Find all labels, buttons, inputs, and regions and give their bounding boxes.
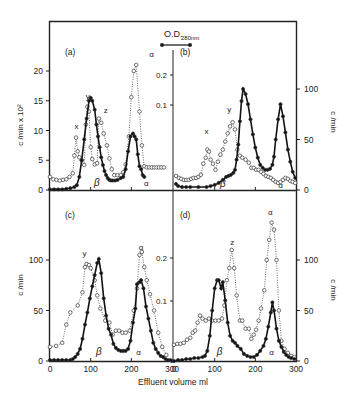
filled-data-point	[131, 321, 134, 324]
open-data-point	[252, 333, 256, 337]
filled-data-point	[85, 117, 88, 120]
open-data-point	[214, 168, 218, 172]
filled-data-point	[294, 176, 297, 179]
x-tick-label: 200	[124, 364, 138, 374]
open-data-point	[207, 150, 211, 154]
filled-data-point	[272, 155, 275, 158]
filled-data-point	[246, 354, 249, 357]
filled-data-point	[135, 138, 138, 141]
filled-data-point	[206, 349, 209, 352]
filled-data-point	[142, 287, 145, 290]
open-data-point	[97, 117, 101, 121]
open-data-point	[196, 321, 200, 325]
peak-annotation: x	[205, 127, 209, 136]
filled-data-point	[69, 187, 72, 190]
filled-data-point	[185, 185, 188, 188]
open-data-point	[270, 221, 274, 225]
y-axis-label-bottom-right: c /min	[329, 279, 338, 300]
peak-annotation: α	[144, 179, 149, 188]
open-data-point	[217, 319, 221, 323]
filled-data-point	[244, 92, 247, 95]
open-data-point	[250, 337, 254, 341]
open-data-point	[76, 150, 80, 154]
filled-data-point	[269, 311, 272, 314]
open-data-point	[73, 154, 77, 158]
filled-data-point	[48, 358, 51, 361]
filled-data-point	[61, 188, 64, 191]
x-tick-label: 100	[84, 364, 98, 374]
open-data-point	[69, 311, 73, 315]
open-data-point	[95, 294, 99, 298]
filled-data-point	[140, 279, 143, 282]
protein-line	[50, 98, 144, 190]
filled-data-point	[238, 120, 241, 123]
filled-data-point	[80, 159, 83, 162]
open-data-point	[65, 178, 69, 182]
filled-data-point	[100, 272, 103, 275]
filled-data-point	[205, 185, 208, 188]
open-data-point	[102, 132, 106, 136]
open-data-point	[241, 156, 245, 160]
od-tick-label: 0.2	[156, 71, 168, 80]
y-tick-label: 50	[304, 135, 314, 145]
filled-data-point	[185, 357, 188, 360]
open-data-point	[193, 329, 197, 333]
peak-annotation: α	[149, 50, 154, 59]
filled-data-point	[93, 108, 96, 111]
x-tick-label: 0	[48, 364, 53, 374]
filled-data-point	[109, 333, 112, 336]
filled-data-point	[256, 156, 259, 159]
filled-data-point	[172, 359, 175, 362]
open-data-point	[91, 157, 95, 161]
filled-data-point	[233, 168, 236, 171]
filled-data-point	[221, 281, 224, 284]
filled-data-point	[246, 103, 249, 106]
filled-data-point	[93, 274, 96, 277]
filled-data-point	[122, 175, 125, 178]
open-data-point	[81, 291, 85, 295]
open-data-point	[156, 331, 160, 335]
filled-data-point	[144, 305, 147, 308]
filled-data-point	[220, 287, 223, 290]
filled-data-point	[143, 175, 146, 178]
open-data-point	[189, 336, 193, 340]
filled-data-point	[107, 327, 110, 330]
x-tick-label: 300	[289, 364, 303, 374]
filled-data-point	[91, 99, 94, 102]
open-data-point	[74, 136, 78, 140]
panel-label: (b)	[180, 47, 191, 57]
filled-data-point	[255, 353, 258, 356]
open-data-point	[145, 278, 149, 282]
open-data-point	[110, 167, 114, 171]
filled-data-point	[213, 287, 216, 290]
filled-data-point	[291, 170, 294, 173]
open-data-point	[95, 161, 99, 165]
open-data-point	[60, 341, 64, 345]
open-data-point	[117, 329, 121, 333]
peak-annotation: y	[227, 105, 231, 114]
open-data-point	[204, 156, 208, 160]
peak-annotation: β	[93, 177, 100, 188]
filled-data-point	[97, 257, 100, 260]
filled-data-point	[284, 131, 287, 134]
radioactivity-line	[50, 65, 164, 181]
filled-data-point	[124, 168, 127, 171]
open-data-point	[277, 309, 281, 313]
filled-data-point	[136, 153, 139, 156]
open-data-point	[152, 309, 156, 313]
filled-data-point	[280, 345, 283, 348]
y-tick-label: 0	[304, 185, 309, 195]
panel-c: (c)0501000.10.20100200300yαβα	[29, 210, 180, 374]
filled-data-point	[101, 163, 104, 166]
peak-annotation: α	[278, 181, 283, 190]
filled-data-point	[259, 163, 262, 166]
peak-annotation: α	[269, 348, 274, 357]
filled-data-point	[290, 356, 293, 359]
filled-data-point	[152, 341, 155, 344]
filled-data-point	[65, 358, 68, 361]
filled-data-point	[100, 156, 103, 159]
filled-data-point	[57, 358, 60, 361]
peak-annotation: z	[104, 106, 108, 115]
filled-data-point	[140, 168, 143, 171]
open-data-point	[216, 160, 220, 164]
